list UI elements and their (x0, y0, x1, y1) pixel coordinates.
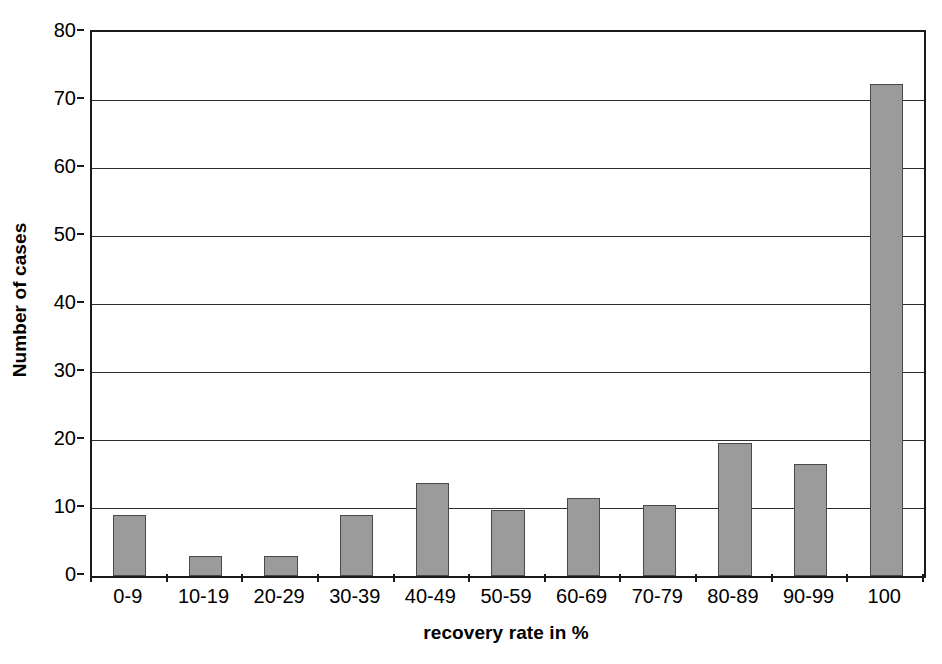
y-axis-title: Number of cases (0, 0, 40, 600)
bar-slot (546, 32, 622, 576)
x-tick-mark (166, 574, 168, 582)
bar (416, 483, 449, 576)
bar-slot (848, 32, 924, 576)
x-tick-mark (695, 574, 697, 582)
y-tick-mark (77, 369, 84, 371)
x-tick-mark (468, 574, 470, 582)
bar-slot (319, 32, 395, 576)
y-tick-mark (77, 233, 84, 235)
bar (643, 505, 676, 576)
x-tick-mark (90, 574, 92, 582)
x-tick-mark (846, 574, 848, 582)
x-tick-mark (317, 574, 319, 582)
x-axis-labels: 0-910-1920-2930-3940-4950-5960-6970-7980… (90, 584, 922, 616)
y-tick-label: 10 (54, 496, 76, 516)
y-tick-mark (77, 505, 84, 507)
x-tick-mark (241, 574, 243, 582)
bars-layer (92, 32, 924, 576)
x-tick-label: 90-99 (771, 584, 847, 616)
y-tick-mark (77, 165, 84, 167)
x-tick-mark (544, 574, 546, 582)
bar (340, 515, 373, 576)
y-tick-label: 40 (54, 292, 76, 312)
bar (794, 464, 827, 576)
x-tick-mark (771, 574, 773, 582)
bar-slot (697, 32, 773, 576)
bar (189, 556, 222, 576)
bar (491, 510, 524, 576)
x-tick-label: 10-19 (166, 584, 242, 616)
bar-chart: Number of cases 01020304050607080 0-910-… (0, 0, 942, 664)
bar-slot (395, 32, 471, 576)
y-tick-mark (77, 29, 84, 31)
x-tick-label: 100 (846, 584, 922, 616)
x-tick-label: 0-9 (90, 584, 166, 616)
x-tick-label: 40-49 (393, 584, 469, 616)
bar-slot (92, 32, 168, 576)
y-tick-mark (77, 97, 84, 99)
y-tick-label: 0 (65, 564, 76, 584)
plot-area (90, 30, 926, 578)
y-tick-label: 30 (54, 360, 76, 380)
x-tick-label: 50-59 (468, 584, 544, 616)
y-tick-mark (77, 437, 84, 439)
y-tick-label: 20 (54, 428, 76, 448)
x-tick-mark (393, 574, 395, 582)
bar-slot (168, 32, 244, 576)
x-tick-label: 30-39 (317, 584, 393, 616)
y-tick-label: 50 (54, 224, 76, 244)
y-tick-mark (77, 573, 84, 575)
bar (264, 556, 297, 576)
y-tick-label: 70 (54, 88, 76, 108)
bar-slot (773, 32, 849, 576)
y-axis-ticks: 01020304050607080 (38, 30, 84, 574)
bar (870, 84, 903, 576)
y-tick-mark (77, 301, 84, 303)
y-tick-label: 60 (54, 156, 76, 176)
x-axis-ticks (90, 574, 922, 584)
x-tick-label: 70-79 (619, 584, 695, 616)
x-tick-label: 60-69 (544, 584, 620, 616)
bar-slot (621, 32, 697, 576)
x-axis-title: recovery rate in % (90, 622, 922, 644)
x-tick-label: 20-29 (241, 584, 317, 616)
bar (718, 443, 751, 576)
bar (567, 498, 600, 576)
x-tick-mark (619, 574, 621, 582)
y-tick-label: 80 (54, 20, 76, 40)
bar-slot (243, 32, 319, 576)
x-tick-mark (922, 574, 924, 582)
y-axis-title-text: Number of cases (9, 223, 31, 378)
bar (113, 515, 146, 576)
x-tick-label: 80-89 (695, 584, 771, 616)
bar-slot (470, 32, 546, 576)
